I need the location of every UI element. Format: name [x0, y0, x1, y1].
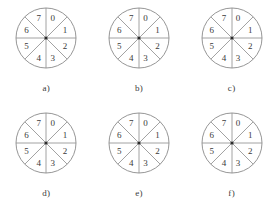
- sector-number-label: 0: [50, 119, 55, 128]
- sector-number-label: 4: [36, 159, 41, 168]
- figure-panel-grid: 01234567a)01234567b)01234567c)01234567d)…: [0, 0, 278, 210]
- sector-number-label: 2: [248, 42, 253, 51]
- sector-number-label: 3: [143, 54, 148, 63]
- sector-number-label: 1: [63, 26, 68, 35]
- panel-caption: d): [42, 189, 50, 198]
- sector-number-label: 2: [63, 42, 68, 51]
- sector-number-label: 3: [50, 159, 55, 168]
- sector-number-label: 4: [129, 54, 134, 63]
- sector-number-label: 6: [117, 26, 122, 35]
- sector-number-label: 6: [117, 131, 122, 140]
- sector-number-label: 4: [222, 159, 227, 168]
- figure-panel: 01234567c): [185, 0, 278, 105]
- sector-number-label: 3: [143, 159, 148, 168]
- sector-number-label: 2: [248, 147, 253, 156]
- circle-graphic: [200, 111, 264, 175]
- circle-graphic: [14, 6, 78, 70]
- sector-circle: 01234567: [200, 111, 264, 175]
- sector-number-label: 0: [236, 119, 241, 128]
- sector-number-label: 1: [248, 131, 253, 140]
- sector-number-label: 0: [143, 119, 148, 128]
- center-dot: [45, 141, 48, 144]
- sector-number-label: 5: [24, 42, 29, 51]
- sector-circle: 01234567: [14, 6, 78, 70]
- sector-number-label: 7: [36, 119, 41, 128]
- sector-number-label: 5: [210, 147, 215, 156]
- sector-number-label: 7: [222, 119, 227, 128]
- sector-circle: 01234567: [14, 111, 78, 175]
- center-dot: [45, 36, 48, 39]
- sector-number-label: 3: [236, 159, 241, 168]
- sector-number-label: 0: [236, 14, 241, 23]
- circle-graphic: [107, 6, 171, 70]
- sector-number-label: 5: [117, 42, 122, 51]
- sector-number-label: 0: [143, 14, 148, 23]
- sector-number-label: 2: [155, 42, 160, 51]
- sector-number-label: 4: [129, 159, 134, 168]
- sector-number-label: 3: [50, 54, 55, 63]
- sector-number-label: 4: [36, 54, 41, 63]
- panel-caption: b): [135, 84, 143, 93]
- panel-caption: a): [43, 84, 51, 93]
- sector-number-label: 6: [24, 131, 29, 140]
- circle-graphic: [107, 111, 171, 175]
- sector-number-label: 3: [236, 54, 241, 63]
- sector-number-label: 7: [129, 119, 134, 128]
- sector-number-label: 1: [248, 26, 253, 35]
- sector-circle: 01234567: [200, 6, 264, 70]
- sector-number-label: 0: [50, 14, 55, 23]
- sector-number-label: 6: [210, 131, 215, 140]
- center-dot: [137, 141, 140, 144]
- center-dot: [230, 36, 233, 39]
- panel-caption: f): [228, 189, 235, 198]
- sector-circle: 01234567: [107, 111, 171, 175]
- center-dot: [137, 36, 140, 39]
- sector-number-label: 7: [36, 14, 41, 23]
- figure-panel: 01234567b): [93, 0, 186, 105]
- sector-number-label: 4: [222, 54, 227, 63]
- sector-number-label: 2: [63, 147, 68, 156]
- panel-caption: c): [228, 84, 236, 93]
- sector-number-label: 7: [129, 14, 134, 23]
- sector-number-label: 6: [210, 26, 215, 35]
- center-dot: [230, 141, 233, 144]
- figure-panel: 01234567a): [0, 0, 93, 105]
- sector-number-label: 1: [155, 131, 160, 140]
- sector-number-label: 5: [210, 42, 215, 51]
- sector-circle: 01234567: [107, 6, 171, 70]
- figure-panel: 01234567f): [185, 105, 278, 210]
- sector-number-label: 5: [117, 147, 122, 156]
- sector-number-label: 7: [222, 14, 227, 23]
- figure-panel: 01234567d): [0, 105, 93, 210]
- circle-graphic: [200, 6, 264, 70]
- sector-number-label: 1: [155, 26, 160, 35]
- panel-caption: e): [135, 189, 143, 198]
- circle-graphic: [14, 111, 78, 175]
- sector-number-label: 6: [24, 26, 29, 35]
- figure-panel: 01234567e): [93, 105, 186, 210]
- sector-number-label: 2: [155, 147, 160, 156]
- sector-number-label: 5: [24, 147, 29, 156]
- sector-number-label: 1: [63, 131, 68, 140]
